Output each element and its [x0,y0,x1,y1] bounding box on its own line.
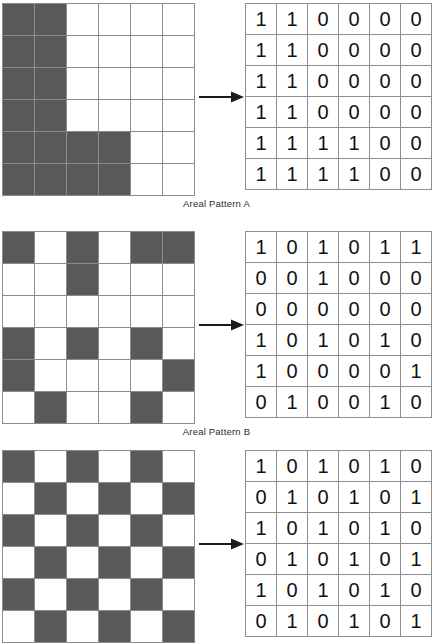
conversion-arrow-c [199,537,245,551]
matrix-row: 010101 [246,606,432,637]
raster-cell [67,36,98,67]
matrix-cell: 1 [370,387,401,418]
matrix-cell: 0 [277,575,308,606]
matrix-row: 010101 [246,544,432,575]
matrix-cell: 0 [370,606,401,637]
raster-cell [67,611,98,642]
raster-cell [99,164,130,195]
raster-cell [67,392,98,423]
raster-cell [99,132,130,163]
raster-cell [131,164,162,195]
matrix-row: 110000 [246,66,432,97]
matrix-cell: 0 [308,544,339,575]
raster-cell [35,547,66,578]
raster-cell [3,515,34,546]
raster-cell [67,264,98,295]
raster-cell [67,232,98,263]
raster-cell [163,611,194,642]
matrix-row: 111100 [246,159,432,190]
matrix-cell: 1 [339,606,370,637]
raster-cell [67,164,98,195]
raster-cell [131,232,162,263]
raster-cell [3,483,34,514]
matrix-cell: 1 [370,575,401,606]
matrix-cell: 1 [246,66,277,97]
raster-cell [35,515,66,546]
matrix-cell: 0 [339,325,370,356]
areal-pattern-grid-c [2,450,195,643]
raster-cell [35,579,66,610]
matrix-cell: 1 [246,4,277,35]
raster-cell [35,264,66,295]
raster-cell [67,360,98,391]
pattern-section-c: 101010010101101010010101101010010101 [0,447,433,639]
raster-cell [3,132,34,163]
matrix-cell: 1 [246,451,277,482]
raster-cell [67,132,98,163]
matrix-cell: 1 [277,66,308,97]
matrix-cell: 1 [401,606,432,637]
matrix-cell: 1 [277,97,308,128]
raster-cell [35,100,66,131]
raster-cell [67,579,98,610]
raster-cell [163,451,194,482]
raster-cell [3,547,34,578]
raster-cell [3,164,34,195]
raster-cell [99,68,130,99]
raster-cell [99,515,130,546]
raster-cell [131,360,162,391]
matrix-cell: 0 [277,451,308,482]
matrix-cell: 1 [246,513,277,544]
matrix-cell: 0 [339,66,370,97]
pattern-section-a: 110000110000110000110000111100111100 Are… [0,0,433,222]
raster-cell [99,296,130,327]
raster-cell [163,296,194,327]
conversion-arrow-a [199,90,245,104]
raster-cell [131,296,162,327]
raster-cell [163,392,194,423]
raster-cell [3,360,34,391]
raster-cell [67,515,98,546]
matrix-row: 110000 [246,97,432,128]
matrix-cell: 0 [370,35,401,66]
raster-cell [3,232,34,263]
matrix-cell: 0 [401,451,432,482]
matrix-cell: 0 [339,513,370,544]
matrix-cell: 0 [401,575,432,606]
matrix-cell: 0 [246,263,277,294]
matrix-cell: 0 [370,544,401,575]
matrix-cell: 0 [339,4,370,35]
matrix-cell: 1 [246,356,277,387]
matrix-cell: 0 [308,482,339,513]
matrix-row: 101011 [246,232,432,263]
raster-cell [131,68,162,99]
raster-cell [99,264,130,295]
matrix-cell: 0 [308,606,339,637]
matrix-cell: 0 [308,97,339,128]
matrix-cell: 1 [308,232,339,263]
matrix-cell: 1 [277,159,308,190]
raster-cell [131,264,162,295]
pattern-caption-a: Areal Pattern A [0,198,433,209]
binary-matrix-a: 110000110000110000110000111100111100 [245,3,432,190]
matrix-cell: 0 [308,4,339,35]
raster-cell [99,100,130,131]
matrix-cell: 1 [246,128,277,159]
matrix-cell: 1 [370,451,401,482]
matrix-cell: 0 [401,325,432,356]
raster-cell [99,36,130,67]
matrix-cell: 1 [246,575,277,606]
matrix-cell: 0 [370,294,401,325]
raster-cell [67,296,98,327]
matrix-cell: 0 [339,263,370,294]
matrix-cell: 0 [370,482,401,513]
matrix-cell: 0 [401,97,432,128]
matrix-cell: 0 [339,356,370,387]
raster-cell [35,392,66,423]
binary-matrix-c: 101010010101101010010101101010010101 [245,450,432,637]
raster-cell [3,328,34,359]
matrix-cell: 0 [401,128,432,159]
areal-pattern-grid-b [2,231,195,424]
raster-cell [131,483,162,514]
raster-cell [99,451,130,482]
